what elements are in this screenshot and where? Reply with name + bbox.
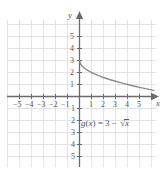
x-tick-label: 3 bbox=[113, 101, 117, 109]
x-tick-label: −5 bbox=[13, 101, 22, 109]
radical-bar bbox=[124, 119, 129, 120]
x-tick-label: −1 bbox=[61, 101, 70, 109]
x-tick-label: 4 bbox=[125, 101, 129, 109]
radicand: x bbox=[125, 118, 129, 128]
y-tick-label: 5 bbox=[71, 153, 75, 161]
x-tick-label: −2 bbox=[49, 101, 58, 109]
function-equation-label: g(x) = 3 − √x bbox=[81, 118, 129, 128]
y-tick-label: 2 bbox=[70, 69, 74, 77]
y-tick-label: 1 bbox=[70, 81, 74, 89]
y-tick-label: 2 bbox=[71, 117, 75, 125]
equation-body: ) = 3 − bbox=[93, 118, 120, 128]
y-tick-label: 4 bbox=[70, 45, 74, 53]
grid-horizontal-lines bbox=[7, 25, 156, 157]
x-axis-label: x bbox=[156, 99, 160, 108]
function-curve bbox=[80, 61, 154, 91]
x-tick-label: −3 bbox=[37, 101, 46, 109]
y-tick-label: 5 bbox=[70, 33, 74, 41]
x-tick-label: −4 bbox=[25, 101, 34, 109]
coordinate-plane-svg bbox=[0, 0, 166, 182]
graph-figure: y x −5 −4 −3 −2 −1 1 2 3 4 5 5 4 3 2 1 1… bbox=[0, 0, 166, 182]
x-tick-label: 5 bbox=[137, 101, 141, 109]
y-axis-label: y bbox=[68, 11, 72, 20]
y-tick-label: 3 bbox=[70, 57, 74, 65]
radical-sign: √x bbox=[119, 118, 129, 128]
x-tick-label: 1 bbox=[89, 101, 93, 109]
y-tick-label: 1 bbox=[71, 105, 75, 113]
equation-function-name: g bbox=[81, 118, 86, 128]
y-tick-label: 4 bbox=[71, 141, 75, 149]
y-axis bbox=[76, 11, 83, 167]
y-tick-label: 3 bbox=[71, 129, 75, 137]
x-tick-label: 2 bbox=[101, 101, 105, 109]
